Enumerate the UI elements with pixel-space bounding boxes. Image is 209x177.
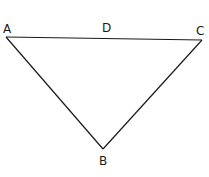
point-label-d: D <box>102 21 111 35</box>
segment-bc <box>103 40 202 149</box>
segment-ab <box>6 37 103 149</box>
vertex-label-a: A <box>3 22 12 36</box>
triangle-diagram: A D C B <box>0 0 209 177</box>
segment-ac <box>6 37 202 40</box>
vertex-label-b: B <box>99 154 107 168</box>
vertex-label-c: C <box>196 24 204 38</box>
